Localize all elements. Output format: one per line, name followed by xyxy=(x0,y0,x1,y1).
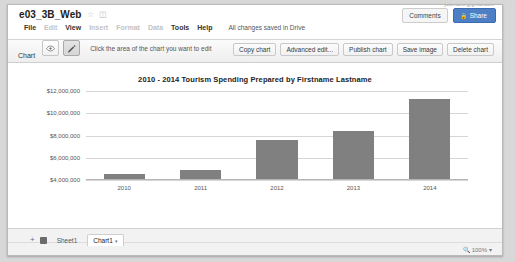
share-button-label: Share xyxy=(470,12,487,19)
save-image-button[interactable]: Save image xyxy=(397,43,443,56)
star-icon[interactable]: ☆ xyxy=(87,11,94,19)
header-actions: Comments 🔒 Share xyxy=(402,8,496,23)
x-axis-tick-label: 2014 xyxy=(392,180,468,191)
bar-series[interactable] xyxy=(86,91,468,180)
menu-edit[interactable]: Edit xyxy=(40,23,61,32)
zoom-control[interactable]: 🔍 100% ▾ xyxy=(463,246,492,253)
menu-file[interactable]: File xyxy=(20,23,40,32)
bar-cell[interactable] xyxy=(315,91,391,180)
menu-format[interactable]: Format xyxy=(112,23,144,32)
y-axis-tick-label: $6,000,000 xyxy=(50,155,80,161)
bar-2014[interactable] xyxy=(409,99,450,180)
copy-chart-button[interactable]: Copy chart xyxy=(233,43,276,56)
chart-canvas[interactable]: 2010 - 2014 Tourism Spending Prepared by… xyxy=(8,63,502,228)
bar-cell[interactable] xyxy=(86,91,162,180)
sheet-tab-chart1[interactable]: Chart1▾ xyxy=(87,234,124,246)
x-axis-tick-label: 2013 xyxy=(315,180,391,191)
magnifier-icon: 🔍 xyxy=(463,246,470,253)
menu-tools[interactable]: Tools xyxy=(167,23,193,32)
y-axis-tick-label: $8,000,000 xyxy=(50,133,80,139)
plot-area[interactable]: $12,000,000$10,000,000$8,000,000$6,000,0… xyxy=(86,91,468,180)
lock-icon: 🔒 xyxy=(460,13,467,19)
sheet-tab-sheet1[interactable]: Sheet1 xyxy=(52,235,83,246)
chart-panel[interactable]: 2010 - 2014 Tourism Spending Prepared by… xyxy=(24,67,486,206)
menu-data[interactable]: Data xyxy=(144,23,167,32)
chart-title[interactable]: 2010 - 2014 Tourism Spending Prepared by… xyxy=(24,75,486,84)
app-header: yourname@gmail.com e03_3B_Web ☆ ◫ File E… xyxy=(8,5,502,39)
x-axis-tick-label: 2012 xyxy=(239,180,315,191)
chart-toolbar-left: Chart Click the area of the chart you wa… xyxy=(18,40,212,62)
bar-cell[interactable] xyxy=(392,91,468,180)
bottom-bar: + Sheet1 Chart1▾ 🔍 100% ▾ xyxy=(8,228,502,255)
spreadsheet-window: yourname@gmail.com e03_3B_Web ☆ ◫ File E… xyxy=(7,4,503,256)
menu-insert[interactable]: Insert xyxy=(85,23,112,32)
publish-chart-button[interactable]: Publish chart xyxy=(343,43,393,56)
chevron-down-icon[interactable]: ▾ xyxy=(115,238,118,244)
document-title[interactable]: e03_3B_Web xyxy=(19,9,82,20)
menu-help[interactable]: Help xyxy=(193,23,216,32)
chart-toolbar-actions: Copy chart Advanced edit... Publish char… xyxy=(233,43,494,56)
add-sheet-icon[interactable]: + xyxy=(30,236,35,244)
chart-toolbar: Chart Click the area of the chart you wa… xyxy=(8,39,502,63)
sheet-tab-strip: + Sheet1 Chart1▾ xyxy=(30,234,124,246)
document-title-row: e03_3B_Web ☆ ◫ xyxy=(19,9,107,20)
eye-icon[interactable] xyxy=(42,40,59,56)
y-axis-tick-label: $12,000,000 xyxy=(47,88,80,94)
share-button[interactable]: 🔒 Share xyxy=(453,8,496,23)
zoom-level: 100% xyxy=(472,247,487,253)
bar-2013[interactable] xyxy=(333,131,374,181)
pencil-icon[interactable] xyxy=(63,40,80,56)
bar-cell[interactable] xyxy=(162,91,238,180)
comments-button[interactable]: Comments xyxy=(402,8,447,23)
x-axis-labels: 20102011201220132014 xyxy=(86,180,468,191)
bar-2012[interactable] xyxy=(256,140,297,180)
y-axis-tick-label: $4,000,000 xyxy=(50,177,80,183)
save-status: All changes saved in Drive xyxy=(228,24,305,31)
zoom-chevron-icon[interactable]: ▾ xyxy=(489,246,492,253)
chart-toolbar-label: Chart xyxy=(18,52,35,59)
folder-icon[interactable]: ◫ xyxy=(99,11,107,19)
delete-chart-button[interactable]: Delete chart xyxy=(447,43,494,56)
x-axis-tick-label: 2010 xyxy=(86,180,162,191)
account-email: yourname@gmail.com xyxy=(444,4,494,7)
x-axis-tick-label: 2011 xyxy=(162,180,238,191)
all-sheets-icon[interactable] xyxy=(40,237,47,244)
advanced-edit-button[interactable]: Advanced edit... xyxy=(280,43,339,56)
chart-edit-hint: Click the area of the chart you want to … xyxy=(90,45,211,52)
y-axis-tick-label: $10,000,000 xyxy=(47,110,80,116)
menu-view[interactable]: View xyxy=(61,23,85,32)
menu-bar: File Edit View Insert Format Data Tools … xyxy=(20,23,305,32)
bar-cell[interactable] xyxy=(239,91,315,180)
sheet-tab-chart1-label: Chart1 xyxy=(93,237,113,244)
